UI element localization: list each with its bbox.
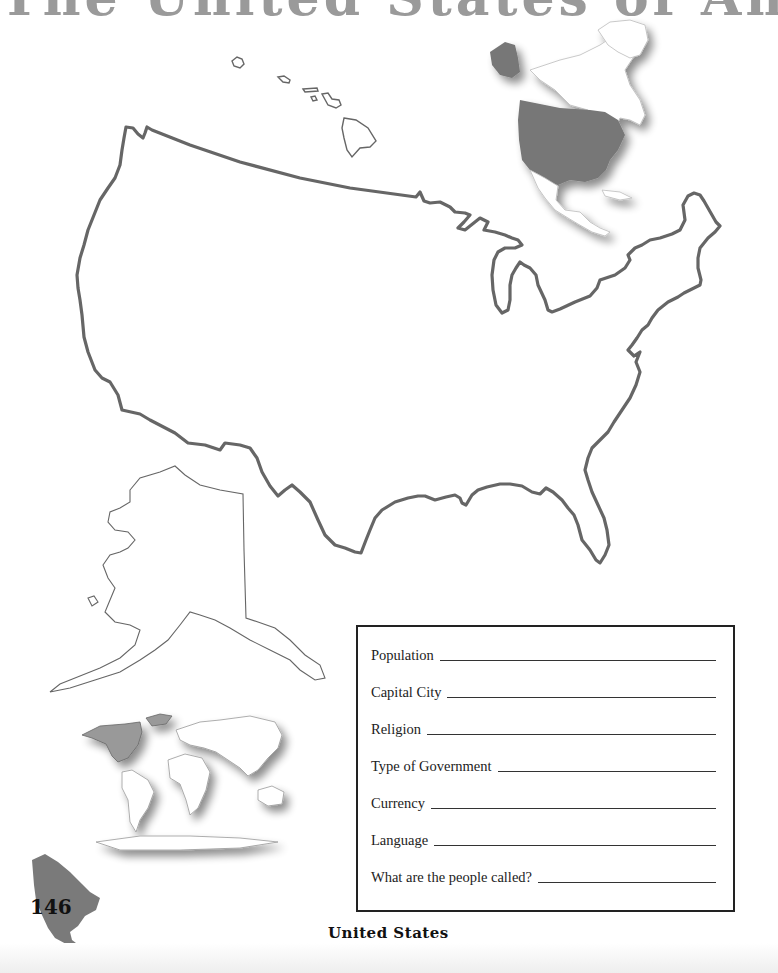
language-answer-line[interactable] bbox=[434, 844, 716, 846]
page-number: 146 bbox=[30, 895, 72, 919]
alaska-map bbox=[50, 466, 325, 692]
language-field[interactable]: Language bbox=[371, 832, 716, 849]
government-type-field[interactable]: Type of Government bbox=[371, 758, 716, 775]
religion-answer-line[interactable] bbox=[427, 733, 716, 735]
footer-country-label: United States bbox=[328, 924, 449, 942]
hawaii-map bbox=[232, 57, 376, 157]
people-called-field[interactable]: What are the people called? bbox=[371, 869, 716, 886]
people-called-answer-line[interactable] bbox=[538, 881, 716, 883]
capital-city-answer-line[interactable] bbox=[447, 696, 716, 698]
page-bottom-edge bbox=[0, 943, 778, 973]
country-facts-box: Population Capital City Religion Type of… bbox=[356, 625, 735, 912]
population-answer-line[interactable] bbox=[440, 659, 716, 661]
religion-label: Religion bbox=[371, 721, 421, 738]
government-type-answer-line[interactable] bbox=[498, 770, 716, 772]
currency-label: Currency bbox=[371, 795, 425, 812]
north-america-locator-map bbox=[490, 20, 648, 236]
language-label: Language bbox=[371, 832, 428, 849]
capital-city-label: Capital City bbox=[371, 684, 441, 701]
currency-field[interactable]: Currency bbox=[371, 795, 716, 812]
people-called-label: What are the people called? bbox=[371, 869, 532, 886]
government-type-label: Type of Government bbox=[371, 758, 492, 775]
religion-field[interactable]: Religion bbox=[371, 721, 716, 738]
world-locator-map bbox=[82, 714, 284, 850]
population-field[interactable]: Population bbox=[371, 647, 716, 664]
population-label: Population bbox=[371, 647, 434, 664]
currency-answer-line[interactable] bbox=[431, 807, 716, 809]
capital-city-field[interactable]: Capital City bbox=[371, 684, 716, 701]
